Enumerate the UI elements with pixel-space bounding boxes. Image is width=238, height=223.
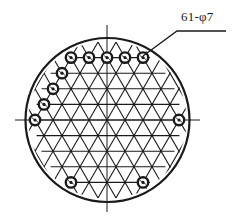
tube-hole-marker [120, 52, 130, 62]
grid-diagonal-line [224, 42, 238, 198]
tube-hole-marker [57, 68, 67, 78]
tube-hole-marker [30, 115, 40, 125]
grid-diagonal-line [206, 42, 238, 198]
tube-hole-marker [102, 52, 112, 62]
tube-hole-marker [66, 177, 76, 187]
tube-hole-marker [84, 52, 94, 62]
tube-hole-marker [174, 115, 184, 125]
tube-hole-marker [138, 177, 148, 187]
grid-diagonal-line [224, 42, 238, 198]
grid-diagonal-line [0, 42, 8, 198]
tube-hole-marker [39, 99, 49, 109]
hole-spec-label: 61-φ7 [181, 9, 213, 25]
grid-diagonal-line [0, 42, 8, 198]
tube-hole-marker [48, 84, 58, 94]
tube-sheet-drawing [0, 0, 238, 223]
tube-hole-marker [66, 52, 76, 62]
grid-diagonal-line [206, 42, 238, 198]
